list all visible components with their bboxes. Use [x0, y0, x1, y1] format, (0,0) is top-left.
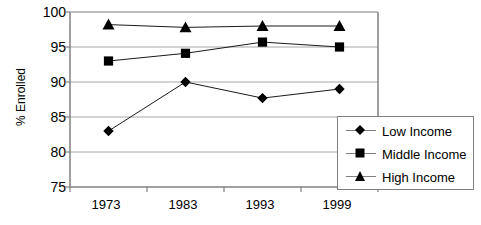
data-point: [103, 19, 115, 30]
data-point: [181, 49, 190, 58]
data-point: [257, 20, 269, 31]
data-series-layer: [103, 19, 346, 137]
plot-area: [0, 0, 481, 225]
data-point: [104, 56, 113, 65]
chart-container: % Enrolled 100 95 90 85 80 75 1973 1983 …: [0, 0, 481, 225]
legend: Low Income Middle Income High Income: [337, 116, 474, 190]
legend-item-high-income[interactable]: High Income: [338, 166, 475, 188]
legend-item-middle-income[interactable]: Middle Income: [338, 143, 475, 165]
axis-lines: [70, 12, 378, 187]
series-middle-income: [104, 38, 344, 66]
data-point: [257, 93, 267, 103]
legend-label: High Income: [382, 171, 455, 184]
data-point: [258, 38, 267, 47]
legend-item-low-income[interactable]: Low Income: [338, 120, 475, 142]
data-point: [103, 126, 113, 136]
data-point: [334, 84, 344, 94]
data-point: [334, 20, 346, 31]
series-high-income: [103, 19, 346, 33]
series-line: [109, 42, 340, 61]
series-line: [109, 25, 340, 28]
legend-label: Middle Income: [382, 148, 467, 161]
gridlines: [70, 12, 378, 152]
data-point: [335, 42, 344, 51]
series-low-income: [103, 77, 344, 136]
data-point: [180, 77, 190, 87]
diamond-icon: [338, 120, 382, 142]
square-icon: [338, 143, 382, 165]
triangle-icon: [338, 166, 382, 188]
series-line: [109, 82, 340, 131]
legend-label: Low Income: [382, 125, 452, 138]
